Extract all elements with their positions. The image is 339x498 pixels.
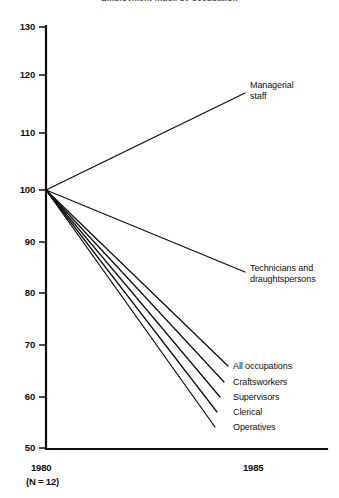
series-label-technicians-line1: Technicians and [250,263,313,274]
series-label-supervisors: Supervisors [233,392,279,403]
y-axis-label-50: 50 [9,443,35,453]
y-axis-label-80: 80 [9,288,35,298]
series-label-clerical: Clerical [233,407,262,418]
y-axis-label-70: 70 [9,340,35,350]
series-line-all-occupations [46,190,228,366]
y-axis-label-60: 60 [9,392,35,402]
x-axis-label-1980: 1980 [31,462,51,473]
series-line-operatives [46,190,215,427]
series-line-craftsworkers [46,190,224,382]
series-label-technicians-line2: draughtspersons [250,274,316,285]
y-axis-label-110: 110 [9,128,35,138]
series-line-supervisors [46,190,220,397]
chart-container: Employment index by occupation 130 120 1… [0,0,339,498]
series-label-all-occupations: All occupations [233,361,292,372]
series-label-managerial-staff-line1: Managerial [250,80,294,91]
y-axis-label-130: 130 [9,22,35,32]
x-axis-label-1985: 1985 [243,462,263,473]
y-axis-label-100: 100 [9,185,35,195]
series-label-operatives: Operatives [233,422,276,433]
x-axis-sublabel-sample-size: (N = 12) [26,476,59,487]
y-axis-label-120: 120 [9,70,35,80]
y-axis-label-90: 90 [9,237,35,247]
series-label-craftsworkers: Craftsworkers [233,377,287,388]
series-line-managerial-staff [46,93,245,190]
series-label-managerial-staff-line2: staff [250,91,266,102]
chart-plot-area [0,0,339,498]
series-line-clerical [46,190,217,412]
